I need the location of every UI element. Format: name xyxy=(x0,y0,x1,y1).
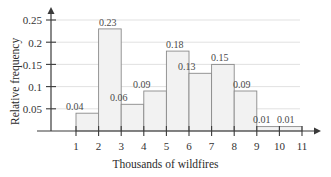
x-tick-label: 9 xyxy=(245,141,269,152)
x-tick-label: 7 xyxy=(200,141,224,152)
x-tick-label: 8 xyxy=(222,141,246,152)
bar xyxy=(279,127,302,131)
bar xyxy=(234,91,257,131)
x-axis-title: Thousands of wildfires xyxy=(0,159,331,171)
y-axis-title: Relative frequency xyxy=(10,38,22,125)
bar xyxy=(189,73,212,131)
bar xyxy=(99,29,122,131)
bar-value-label: 0.09 xyxy=(133,80,151,90)
x-tick-label: 2 xyxy=(87,141,111,152)
bar-value-label: 0.18 xyxy=(166,40,184,50)
bar-value-label: 0.23 xyxy=(99,18,117,28)
bar-value-label: 0.15 xyxy=(211,53,229,63)
x-tick-label: 5 xyxy=(154,141,178,152)
bar-value-label: 0.01 xyxy=(253,115,271,125)
bar-value-label: 0.06 xyxy=(110,93,128,103)
histogram-chart: 0.05 0.1 0.15 0.2 0.25 1 2 3 4 5 6 7 8 9… xyxy=(0,0,331,177)
x-tick-label: 6 xyxy=(177,141,201,152)
x-tick-label: 1 xyxy=(64,141,88,152)
bar-value-label: 0.13 xyxy=(178,62,196,72)
bar xyxy=(144,91,167,131)
bar-value-label: 0.04 xyxy=(66,102,84,112)
bar-value-label: 0.01 xyxy=(277,115,295,125)
x-tick-label: 3 xyxy=(109,141,133,152)
bar xyxy=(76,113,99,131)
bar xyxy=(257,127,280,131)
bar xyxy=(212,64,235,131)
y-tick-label: 0.25 xyxy=(8,15,42,26)
bar xyxy=(121,104,144,131)
x-tick-label: 10 xyxy=(267,141,291,152)
x-tick-label: 4 xyxy=(132,141,156,152)
x-tick-label: 11 xyxy=(290,141,314,152)
bar-value-label: 0.09 xyxy=(233,80,251,90)
